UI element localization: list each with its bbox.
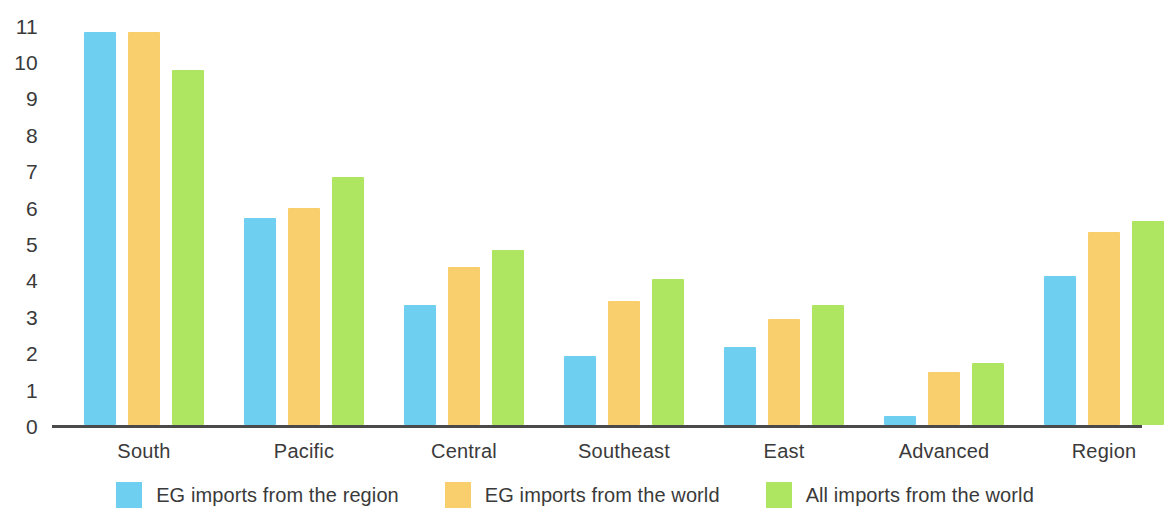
y-axis-tick-10: 10 (14, 52, 38, 73)
x-axis-label-east: East (764, 440, 805, 463)
y-axis-tick-9: 9 (26, 88, 38, 109)
bar-south-series-2[interactable] (128, 32, 160, 425)
bar-central-series-2[interactable] (448, 267, 480, 425)
y-axis-tick-8: 8 (26, 124, 38, 145)
bar-southeast-series-3[interactable] (652, 279, 684, 425)
bar-advanced-series-3[interactable] (972, 363, 1004, 425)
y-axis-tick-6: 6 (26, 197, 38, 218)
bar-south-series-1[interactable] (84, 32, 116, 425)
y-axis-tick-11: 11 (16, 15, 38, 36)
legend-item-1[interactable]: EG imports from the region (116, 482, 399, 508)
bar-region-series-2[interactable] (1088, 232, 1120, 425)
y-axis-tick-5: 5 (26, 234, 38, 255)
legend-swatch-icon-3 (766, 482, 792, 508)
x-axis-baseline (52, 425, 1142, 428)
legend-label-2: EG imports from the world (485, 484, 720, 507)
legend-swatch-icon-2 (445, 482, 471, 508)
bar-central-series-3[interactable] (492, 250, 524, 425)
chart-legend: EG imports from the regionEG imports fro… (0, 482, 1150, 508)
bar-pacific-series-1[interactable] (244, 218, 276, 425)
bar-group-region (1044, 0, 1164, 425)
x-axis-label-south: South (117, 440, 170, 463)
x-axis-label-region: Region (1072, 440, 1137, 463)
x-axis-label-southeast: Southeast (578, 440, 670, 463)
bar-advanced-series-2[interactable] (928, 372, 960, 425)
y-axis-tick-3: 3 (26, 306, 38, 327)
bar-southeast-series-1[interactable] (564, 356, 596, 425)
bar-group-central (404, 0, 524, 425)
bar-region-series-3[interactable] (1132, 221, 1164, 425)
y-axis-tick-7: 7 (26, 161, 38, 182)
bar-pacific-series-3[interactable] (332, 177, 364, 425)
bar-group-south (84, 0, 204, 425)
y-axis-tick-2: 2 (26, 343, 38, 364)
legend-label-1: EG imports from the region (156, 484, 399, 507)
legend-swatch-icon-1 (116, 482, 142, 508)
y-axis-tick-4: 4 (26, 270, 38, 291)
bar-east-series-1[interactable] (724, 347, 756, 425)
x-axis-label-pacific: Pacific (274, 440, 334, 463)
bar-southeast-series-2[interactable] (608, 301, 640, 425)
legend-label-3: All imports from the world (806, 484, 1034, 507)
legend-item-2[interactable]: EG imports from the world (445, 482, 720, 508)
bar-region-series-1[interactable] (1044, 276, 1076, 425)
y-axis-tick-0: 0 (26, 416, 38, 437)
bar-south-series-3[interactable] (172, 70, 204, 425)
y-axis: 01234567891011 (0, 0, 46, 440)
bar-group-pacific (244, 0, 364, 425)
bar-east-series-2[interactable] (768, 319, 800, 425)
bar-east-series-3[interactable] (812, 305, 844, 425)
bar-group-east (724, 0, 844, 425)
bar-pacific-series-2[interactable] (288, 208, 320, 425)
y-axis-tick-1: 1 (26, 379, 38, 400)
bar-group-advanced (884, 0, 1004, 425)
x-axis-label-advanced: Advanced (899, 440, 990, 463)
x-axis-label-central: Central (431, 440, 497, 463)
bar-advanced-series-1[interactable] (884, 416, 916, 425)
bar-central-series-1[interactable] (404, 305, 436, 425)
plot-area (52, 0, 1142, 428)
bar-group-southeast (564, 0, 684, 425)
legend-item-3[interactable]: All imports from the world (766, 482, 1034, 508)
